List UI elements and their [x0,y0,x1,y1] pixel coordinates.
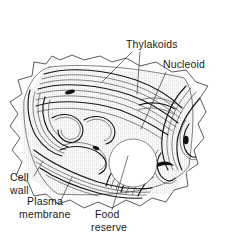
cytoplasm-region [20,65,200,198]
label-cell-wall-line2: wall [9,184,29,196]
food-reserve-granule [109,139,157,187]
diagram-svg: Thylakoids Nucleoid Cell wall Plasma mem… [0,0,237,246]
label-cell-wall-line1: Cell [10,171,29,183]
label-plasma-membrane-line2: membrane [19,208,70,220]
label-food-reserve-line2: reserve [91,221,127,233]
label-food-reserve-line1: Food [95,208,120,220]
label-thylakoids: Thylakoids [126,38,178,50]
label-plasma-membrane-line1: Plasma [27,195,63,207]
label-nucleoid: Nucleoid [163,58,205,70]
cell-diagram-figure: Thylakoids Nucleoid Cell wall Plasma mem… [0,0,237,246]
